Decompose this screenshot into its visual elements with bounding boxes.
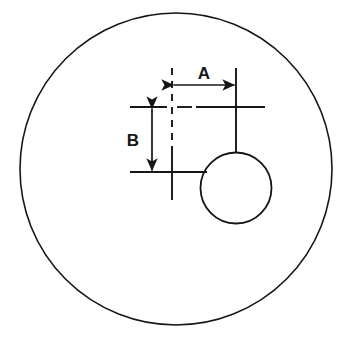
hole-circle (201, 153, 272, 224)
diagram-canvas: A B (0, 0, 347, 338)
dimension-diagram: A B (0, 0, 347, 338)
outer-circle (20, 13, 332, 325)
dimension-b-label: B (127, 131, 139, 150)
dimension-a-label: A (198, 64, 210, 83)
